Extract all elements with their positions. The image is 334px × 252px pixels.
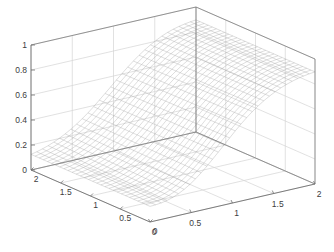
axis-lines (31, 7, 315, 222)
axis-tick-marks (31, 45, 315, 222)
z-axis-tick-labels: 00.20.40.60.81 (15, 40, 27, 175)
figure-canvas: 00.20.40.60.81 00.511.52 00.511.52 (0, 0, 334, 252)
mesh-line-constant-x (145, 50, 264, 101)
y-tick-label: 0.5 (119, 213, 131, 223)
z-tick-label: 0.2 (15, 140, 27, 150)
x-tick-label: 0 (152, 227, 157, 237)
mesh-surface (31, 20, 315, 207)
y-tick-label: 2 (34, 174, 39, 184)
x-tick-label: 1.5 (272, 199, 284, 209)
y-tick-label: 1 (93, 200, 98, 210)
z-tick-label: 0.6 (15, 90, 27, 100)
mesh-line-constant-x (190, 22, 309, 74)
z-tick-label: 0.8 (15, 65, 27, 75)
x-tick-label: 1 (234, 208, 239, 218)
floor-gridline-y (120, 171, 285, 209)
z-tick-label: 0 (22, 165, 27, 175)
mesh-line-constant-x (168, 32, 287, 84)
mesh-line-constant-y (150, 72, 315, 207)
mesh-line-constant-x (179, 26, 298, 78)
mesh-line-constant-x (31, 154, 150, 206)
mesh-line-constant-x (37, 152, 156, 205)
z-tick-label: 0.4 (15, 115, 27, 125)
mesh-line-constant-x (128, 67, 247, 118)
y-tick-label: 1.5 (60, 187, 72, 197)
surface-plot-3d: 00.20.40.60.81 00.511.52 00.511.52 (0, 0, 334, 252)
x-tick-label: 0.5 (189, 218, 201, 228)
x-tick-label: 2 (317, 189, 322, 199)
mesh-line-constant-x (133, 61, 252, 112)
z-tick-label: 1 (22, 40, 27, 50)
